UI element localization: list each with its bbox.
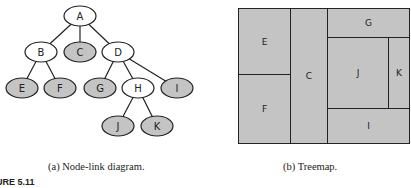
node-F: F	[44, 78, 76, 98]
node-link-diagram: ABCDEFGHIJK	[0, 0, 205, 150]
node-G: G	[84, 78, 116, 98]
svg-text:K: K	[154, 121, 161, 132]
node-B: B	[25, 42, 57, 62]
treemap-cell-C: C	[290, 8, 328, 144]
treemap-cell-F: F	[238, 74, 291, 144]
svg-text:B: B	[38, 47, 45, 58]
node-I: I	[161, 78, 193, 98]
node-A: A	[64, 6, 96, 26]
figure-label: URE 5.11	[0, 177, 35, 187]
svg-text:E: E	[19, 83, 25, 94]
node-K: K	[141, 116, 173, 136]
svg-text:J: J	[116, 121, 120, 132]
node-E: E	[6, 78, 38, 98]
node-D: D	[102, 42, 134, 62]
node-C: C	[64, 42, 96, 62]
treemap-cell-I: I	[327, 108, 410, 144]
node-J: J	[102, 116, 134, 136]
svg-text:I: I	[176, 83, 179, 94]
treemap: EFCGJKI	[238, 8, 410, 144]
treemap-cell-G: G	[327, 8, 410, 38]
treemap-cell-E: E	[238, 8, 291, 75]
svg-text:F: F	[57, 83, 63, 94]
svg-text:A: A	[77, 11, 84, 22]
svg-text:C: C	[77, 47, 84, 58]
svg-text:G: G	[96, 83, 104, 94]
node-H: H	[122, 78, 154, 98]
treemap-cell-K: K	[388, 37, 410, 109]
caption-node-link: (a) Node-link diagram.	[48, 161, 145, 172]
svg-text:D: D	[114, 47, 122, 58]
treemap-cell-J: J	[327, 37, 389, 109]
caption-treemap: (b) Treemap.	[283, 161, 337, 172]
svg-text:H: H	[134, 83, 142, 94]
